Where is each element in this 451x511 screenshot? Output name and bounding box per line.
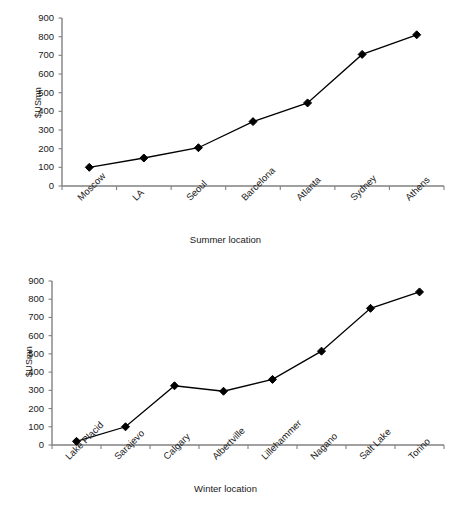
summer-y-tick-label: 900: [24, 12, 54, 23]
summer-y-tick-label: 700: [24, 49, 54, 60]
summer-y-tick-label: 800: [24, 31, 54, 42]
summer-data-point-marker: [194, 144, 202, 152]
winter-y-tick-label: 100: [14, 421, 44, 432]
winter-y-tick-label: 200: [14, 403, 44, 414]
winter-y-tick-label: 800: [14, 293, 44, 304]
summer-chart-plot-area: $USmn 0100200300400500600700800900 Mosco…: [0, 0, 451, 255]
winter-chart-figure: $USmn 0100200300400500600700800900 Lake …: [0, 255, 451, 501]
summer-y-tick-label: 300: [24, 124, 54, 135]
summer-data-point-marker: [249, 118, 257, 126]
winter-y-tick-label: 300: [14, 384, 44, 395]
winter-y-tick-label: 700: [14, 311, 44, 322]
summer-y-tick-label: 400: [24, 105, 54, 116]
summer-x-axis-title: Summer location: [0, 234, 451, 245]
winter-data-line: [77, 292, 420, 441]
winter-data-point-marker: [220, 387, 228, 395]
summer-y-tick-label: 0: [24, 180, 54, 191]
winter-data-point-marker: [416, 288, 424, 296]
winter-y-tick-label: 0: [14, 439, 44, 450]
summer-data-point-marker: [413, 31, 421, 39]
summer-y-tick-label: 500: [24, 87, 54, 98]
summer-chart-figure: $USmn 0100200300400500600700800900 Mosco…: [0, 0, 451, 255]
winter-data-point-marker: [269, 375, 277, 383]
summer-y-tick-label: 600: [24, 68, 54, 79]
summer-data-point-marker: [140, 154, 148, 162]
winter-y-tick-label: 500: [14, 348, 44, 359]
summer-data-point-marker: [85, 163, 93, 171]
summer-y-tick-label: 100: [24, 161, 54, 172]
winter-chart-plot-area: $USmn 0100200300400500600700800900 Lake …: [0, 255, 451, 501]
summer-y-tick-label: 200: [24, 143, 54, 154]
winter-y-tick-label: 400: [14, 366, 44, 377]
summer-chart-svg: [0, 0, 451, 255]
winter-x-axis-title: Winter location: [0, 483, 451, 494]
winter-y-tick-label: 900: [14, 275, 44, 286]
winter-y-tick-label: 600: [14, 330, 44, 341]
winter-chart-svg: [0, 255, 451, 501]
summer-data-line: [89, 35, 416, 168]
